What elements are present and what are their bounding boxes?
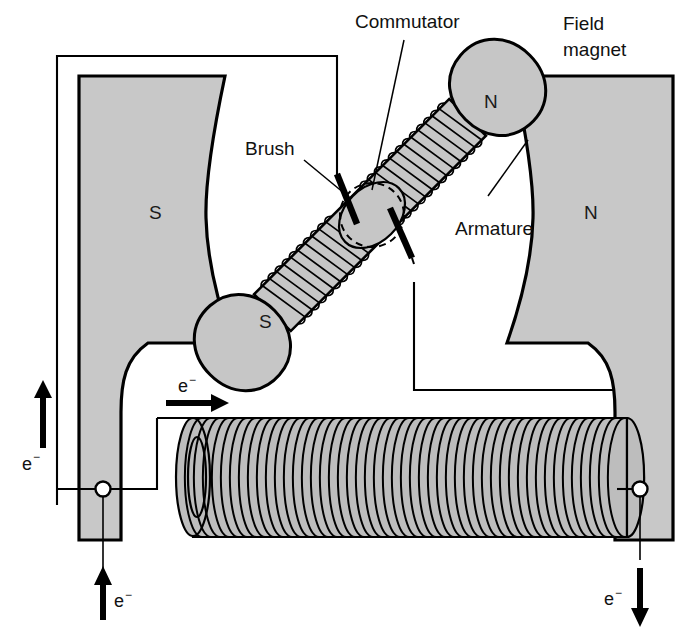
brush-leader <box>304 160 350 198</box>
armature-label: Armature <box>455 218 533 239</box>
electron-label-bottom-right: e <box>604 589 614 609</box>
electron-label-bottom-left: e <box>114 591 124 611</box>
field-magnet-north-label: N <box>584 202 598 223</box>
motor-diagram-canvas: S N <box>0 0 697 643</box>
electron-arrow-bottom-right-down: e − <box>604 568 649 627</box>
brush-label: Brush <box>245 138 295 159</box>
field-magnet-label-line2: magnet <box>563 39 627 60</box>
field-coil-solenoid <box>176 418 644 537</box>
armature-leader <box>488 140 528 196</box>
electron-charge-bottom-left: − <box>125 588 132 602</box>
armature-north-label: N <box>484 91 498 112</box>
electron-charge-left: − <box>33 450 40 464</box>
terminal-left <box>96 482 111 497</box>
electron-arrow-left-up: e − <box>22 380 52 474</box>
motor-diagram-svg: S N <box>0 0 697 643</box>
terminal-right <box>633 482 648 497</box>
commutator-label: Commutator <box>355 11 460 32</box>
electron-label-left: e <box>22 454 32 474</box>
electron-label-top: e <box>178 376 188 396</box>
electron-arrow-bottom-left-up: e − <box>94 566 132 620</box>
field-magnet-south-label: S <box>149 202 162 223</box>
electron-charge-bottom-right: − <box>615 586 622 600</box>
armature-south-label: S <box>259 311 272 332</box>
electron-charge-top: − <box>189 373 196 387</box>
field-magnet-label-line1: Field <box>563 13 604 34</box>
